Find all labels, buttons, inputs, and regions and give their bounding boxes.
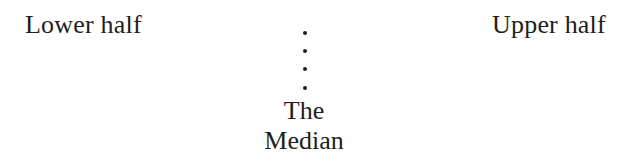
- divider-dot: [303, 67, 307, 71]
- lower-half-label: Lower half: [25, 12, 142, 38]
- median-label-line2: Median: [234, 128, 374, 154]
- median-label-line1: The: [234, 98, 374, 124]
- upper-half-label: Upper half: [492, 12, 606, 38]
- divider-dot: [303, 49, 307, 53]
- divider-dot: [303, 86, 307, 90]
- divider-dot: [303, 31, 307, 35]
